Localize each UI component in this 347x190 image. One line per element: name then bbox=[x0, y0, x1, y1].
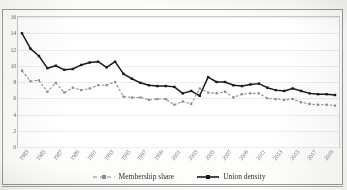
series-marker bbox=[72, 68, 74, 70]
series-marker bbox=[190, 90, 192, 92]
series-marker bbox=[258, 92, 260, 94]
series-marker bbox=[317, 104, 319, 106]
x-tick-label: 1989 bbox=[69, 149, 81, 161]
series-marker bbox=[105, 66, 107, 68]
series-marker bbox=[173, 86, 175, 88]
series-marker bbox=[300, 90, 302, 92]
x-tick-label: 2005 bbox=[204, 149, 216, 161]
series-marker bbox=[55, 65, 57, 67]
series-marker bbox=[55, 82, 57, 84]
series-marker bbox=[275, 98, 277, 100]
series-marker bbox=[292, 98, 294, 100]
series-marker bbox=[283, 99, 285, 101]
y-tick-label: 16 bbox=[10, 14, 16, 20]
series-marker bbox=[122, 96, 124, 98]
series-marker bbox=[38, 55, 40, 57]
x-tick-label: 1995 bbox=[119, 149, 131, 161]
series-marker bbox=[325, 104, 327, 106]
series-marker bbox=[21, 70, 23, 72]
series-marker bbox=[207, 91, 209, 93]
chart-title-strip bbox=[0, 0, 347, 9]
series-marker bbox=[148, 84, 150, 86]
series-marker bbox=[292, 87, 294, 89]
chart-frame: 0246810121416 19831985198719891991199319… bbox=[2, 9, 343, 185]
series-line bbox=[22, 71, 335, 106]
series-marker bbox=[258, 82, 260, 84]
gridline bbox=[18, 147, 339, 148]
series-marker bbox=[29, 80, 31, 82]
series-marker bbox=[190, 103, 192, 105]
y-tick-label: 14 bbox=[10, 30, 16, 36]
x-tick-label: 2003 bbox=[187, 149, 199, 161]
series-marker bbox=[249, 92, 251, 94]
series-marker bbox=[122, 73, 124, 75]
series-marker bbox=[165, 98, 167, 100]
series-marker bbox=[156, 98, 158, 100]
legend-entry[interactable]: Union density bbox=[196, 172, 265, 181]
series-marker bbox=[215, 92, 217, 94]
series-marker bbox=[131, 96, 133, 98]
page-bottom-rule bbox=[2, 186, 343, 187]
series-marker bbox=[300, 101, 302, 103]
x-tick-label: 1999 bbox=[153, 149, 165, 161]
series-marker bbox=[97, 84, 99, 86]
series-marker bbox=[241, 93, 243, 95]
x-tick-label: 2009 bbox=[238, 149, 250, 161]
legend-label: Membership share bbox=[119, 172, 175, 181]
series-marker bbox=[21, 32, 23, 34]
series-marker bbox=[241, 85, 243, 87]
y-tick-label: 0 bbox=[13, 144, 16, 150]
series-marker bbox=[224, 81, 226, 83]
series-marker bbox=[334, 94, 336, 96]
x-tick-label: 2015 bbox=[288, 149, 300, 161]
series-marker bbox=[266, 86, 268, 88]
legend-entry[interactable]: Membership share bbox=[92, 172, 175, 181]
series-marker bbox=[63, 69, 65, 71]
series-marker bbox=[215, 81, 217, 83]
series-marker bbox=[97, 60, 99, 62]
series-marker bbox=[182, 100, 184, 102]
series-marker bbox=[283, 90, 285, 92]
x-tick-label: 1997 bbox=[136, 149, 148, 161]
x-tick-label: 2007 bbox=[221, 149, 233, 161]
series-marker bbox=[72, 87, 74, 89]
series-marker bbox=[139, 82, 141, 84]
y-tick-label: 12 bbox=[10, 47, 16, 53]
x-tick-label: 1983 bbox=[18, 149, 30, 161]
series-marker bbox=[63, 91, 65, 93]
series-marker bbox=[317, 93, 319, 95]
y-tick-label: 10 bbox=[10, 63, 16, 69]
series-marker bbox=[156, 85, 158, 87]
series-marker bbox=[80, 64, 82, 66]
x-tick-label: 2019 bbox=[322, 149, 334, 161]
series-marker bbox=[173, 104, 175, 106]
series-marker bbox=[182, 92, 184, 94]
figure-container: 0246810121416 19831985198719891991199319… bbox=[0, 0, 347, 190]
y-tick-label: 8 bbox=[13, 79, 16, 85]
series-marker bbox=[325, 93, 327, 95]
series-marker bbox=[114, 81, 116, 83]
series-marker bbox=[232, 84, 234, 86]
series-marker bbox=[46, 91, 48, 93]
chart-legend: Membership shareUnion density bbox=[17, 172, 340, 181]
series-marker bbox=[29, 47, 31, 49]
series-marker bbox=[148, 99, 150, 101]
y-tick-label: 4 bbox=[13, 112, 16, 118]
series-marker bbox=[131, 78, 133, 80]
y-tick-label: 2 bbox=[13, 128, 16, 134]
series-marker bbox=[105, 84, 107, 86]
series-marker bbox=[199, 87, 201, 89]
series-marker bbox=[334, 104, 336, 106]
y-tick-label: 6 bbox=[13, 95, 16, 101]
series-marker bbox=[198, 95, 200, 97]
x-tick-label: 1987 bbox=[52, 149, 64, 161]
x-tick-label: 2013 bbox=[272, 149, 284, 161]
plot-area: 0246810121416 19831985198719891991199319… bbox=[17, 16, 340, 148]
series-marker bbox=[232, 96, 234, 98]
series-marker bbox=[309, 103, 311, 105]
legend-swatch-icon bbox=[196, 173, 220, 181]
series-marker bbox=[139, 96, 141, 98]
series-marker bbox=[38, 79, 40, 81]
series-marker bbox=[308, 92, 310, 94]
x-tick-label: 1993 bbox=[102, 149, 114, 161]
